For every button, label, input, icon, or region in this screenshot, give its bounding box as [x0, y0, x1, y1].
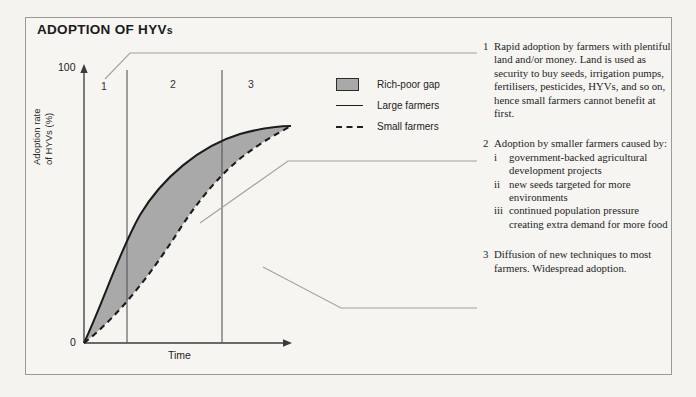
annotation-subtext-iii: continued population pressure creating e… — [509, 204, 673, 231]
annotation-item-2: 2 Adoption by smaller farmers caused by:… — [483, 137, 673, 231]
zone-label-1: 1 — [101, 80, 107, 92]
annotation-item-1: 1 Rapid adoption by farmers with plentif… — [483, 40, 673, 120]
annotation-number-1: 1 — [483, 40, 494, 120]
annotation-subitem-i: i government-backed agricultural develop… — [494, 151, 673, 178]
zone-label-2: 2 — [170, 78, 176, 90]
chart-legend: Rich-poor gap Large farmers Small farmer… — [336, 76, 440, 139]
annotation-number-3: 3 — [483, 248, 494, 275]
annotation-text-3: Diffusion of new techniques to most farm… — [494, 248, 673, 275]
zone-label-3: 3 — [248, 78, 254, 90]
page-title: ADOPTION OF HYVs — [37, 22, 173, 37]
annotation-subitem-ii: ii new seeds targeted for more environme… — [494, 178, 673, 205]
annotation-text-2: Adoption by smaller farmers caused by: — [494, 137, 667, 149]
x-axis-label: Time — [168, 349, 191, 361]
y-tick-100: 100 — [58, 61, 76, 73]
title-text: ADOPTION OF HYV — [37, 22, 167, 37]
annotation-number-2: 2 — [483, 137, 494, 231]
y-tick-0: 0 — [70, 336, 76, 348]
legend-solid-line-icon — [336, 105, 368, 106]
annotation-subtext-ii: new seeds targeted for more environments — [509, 178, 673, 205]
legend-dashed-line-icon — [336, 126, 368, 128]
y-axis-label-line2: of HYVs (%) — [43, 45, 55, 165]
title-suffix: s — [167, 24, 173, 36]
y-axis-label: Adoption rate of HYVs (%) — [31, 45, 54, 165]
legend-item-large-farmers: Large farmers — [336, 97, 440, 114]
legend-label-rich-poor-gap: Rich-poor gap — [377, 79, 440, 90]
annotation-subitem-iii: iii continued population pressure creati… — [494, 204, 673, 231]
legend-label-large-farmers: Large farmers — [377, 100, 439, 111]
annotation-text-1: Rapid adoption by farmers with plentiful… — [494, 40, 673, 120]
annotation-submarker-i: i — [494, 151, 509, 178]
legend-swatch-icon — [336, 78, 368, 91]
legend-label-small-farmers: Small farmers — [377, 121, 439, 132]
legend-item-rich-poor-gap: Rich-poor gap — [336, 76, 440, 93]
annotation-item-3: 3 Diffusion of new techniques to most fa… — [483, 248, 673, 275]
annotation-submarker-ii: ii — [494, 178, 509, 205]
legend-item-small-farmers: Small farmers — [336, 118, 440, 135]
y-axis-label-line1: Adoption rate — [31, 45, 43, 165]
annotation-list: 1 Rapid adoption by farmers with plentif… — [483, 40, 673, 277]
annotation-subtext-i: government-backed agricultural developme… — [509, 151, 673, 178]
annotation-submarker-iii: iii — [494, 204, 509, 231]
